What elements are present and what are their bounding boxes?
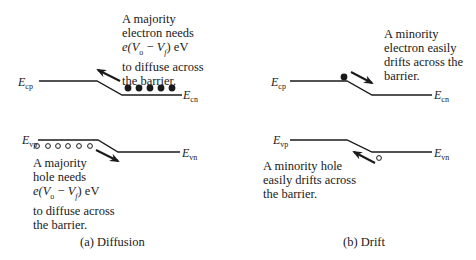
caption-drift: (b) Drift: [343, 235, 385, 250]
label-ecp-b: Ecp: [271, 76, 286, 93]
diffusion-hole-note: A majority hole needs e(Vo − Vf) eV to d…: [33, 156, 115, 232]
drift-electron-note: A minority electron easily drifts across…: [384, 27, 463, 83]
diffusion-majority-holes: [35, 144, 93, 149]
label-ecp-a: Ecp: [18, 76, 33, 93]
caption-diffusion: (a) Diffusion: [80, 235, 145, 250]
label-evp-a: Evp: [22, 134, 37, 151]
drift-electron-arrow-icon: [351, 72, 372, 83]
diffusion-electron-note: A majority electron needs e(Vo − Vf) eV …: [122, 12, 204, 88]
label-evn-a: Evn: [182, 147, 197, 164]
label-evp-b: Evp: [273, 134, 288, 151]
drift-valence-band: [290, 140, 432, 152]
label-ecn-b: Ecn: [434, 89, 449, 106]
diffusion-valence-band: [38, 140, 180, 152]
diffusion-electron-arrow-icon: [98, 70, 120, 81]
drift-minority-hole: [377, 156, 382, 161]
drift-hole-note: A minority hole easily drifts across the…: [263, 159, 356, 201]
formula: e(Vo − Vf) eV: [33, 184, 115, 204]
drift-hole-arrow-icon: [354, 152, 375, 163]
formula: e(Vo − Vf) eV: [122, 40, 204, 60]
drift-conduction-band: [290, 81, 432, 95]
drift-minority-electron: [341, 74, 348, 81]
label-ecn-a: Ecn: [183, 89, 198, 106]
label-evn-b: Evn: [434, 147, 449, 164]
